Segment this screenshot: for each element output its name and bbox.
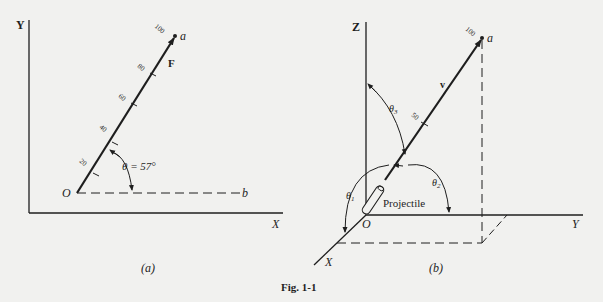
- figure-canvas: Y X O b a F 20 40 60 80 100 θ = 57° (a): [0, 0, 603, 302]
- projection-y-parallel: [482, 215, 507, 243]
- angle-arc-theta3: [368, 84, 405, 154]
- tick-100: 100: [153, 22, 167, 35]
- panel-label-b: (b): [429, 261, 443, 275]
- projectile-label: Projectile: [383, 197, 425, 209]
- origin-label-a: O: [62, 186, 71, 200]
- tip-label-a: a: [180, 29, 186, 43]
- origin-label-b: O: [362, 217, 371, 231]
- projectile-icon: [361, 184, 386, 215]
- x-axis-label-b: X: [324, 255, 333, 269]
- y-axis-label-a: Y: [16, 18, 25, 32]
- tip-label-a-b: a: [487, 31, 493, 45]
- tick-50-b: 50: [410, 111, 421, 122]
- panel-a: Y X O b a F 20 40 60 80 100 θ = 57° (a): [16, 18, 283, 275]
- angle-arc-theta3-start: [368, 84, 376, 92]
- theta3-label: θ3: [389, 103, 398, 116]
- tip-point-a: [173, 34, 177, 38]
- tick-60: 60: [117, 92, 128, 103]
- tick-100-b: 100: [464, 25, 478, 38]
- panel-b: Z Y X O a v 50 100 Projectile θ3 θ2: [314, 20, 583, 275]
- angle-arc-theta-start: [110, 150, 120, 157]
- tick-80: 80: [136, 62, 147, 73]
- theta2-label: θ2: [432, 177, 441, 190]
- angle-label-theta: θ = 57°: [122, 160, 156, 172]
- vector-label-v: v: [440, 79, 445, 90]
- theta1-label: θ1: [346, 190, 354, 203]
- panel-label-a: (a): [141, 261, 155, 275]
- ref-point-label-b: b: [242, 186, 248, 200]
- tick-20: 20: [78, 157, 89, 168]
- x-axis-b: [314, 215, 366, 265]
- y-axis-label-b: Y: [572, 217, 580, 231]
- figure-caption: Fig. 1-1: [281, 281, 316, 293]
- tick-40: 40: [98, 123, 109, 134]
- z-axis-label-b: Z: [352, 20, 360, 34]
- tip-point-a-b: [480, 36, 484, 40]
- velocity-vector-v: [385, 40, 481, 180]
- x-axis-label-a: X: [271, 217, 280, 231]
- vector-label-f: F: [168, 57, 175, 69]
